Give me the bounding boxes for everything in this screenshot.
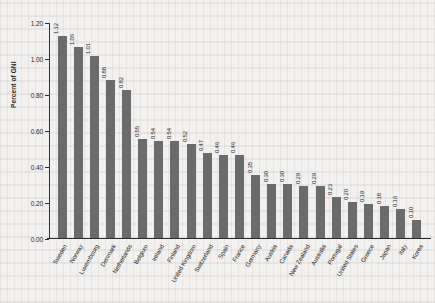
x-label-slot: Greece	[361, 241, 377, 301]
bar[interactable]: 0.46	[235, 155, 244, 238]
bar-slot: 1.06	[70, 23, 86, 238]
x-label-slot: Australia	[313, 241, 329, 301]
bar-slot: 0.30	[264, 23, 280, 238]
bar-value-label: 0.29	[295, 173, 301, 184]
bar-value-label: 0.18	[376, 193, 382, 204]
bar[interactable]: 0.46	[219, 155, 228, 238]
bar-value-label: 0.29	[311, 173, 317, 184]
y-axis-tick: 0.40	[16, 163, 49, 172]
bar-value-label: 0.82	[118, 78, 124, 89]
bar-slot: 1.01	[86, 23, 102, 238]
x-label-slot: France	[232, 241, 248, 301]
y-axis-tick: 0.00	[16, 235, 49, 244]
bar[interactable]: 0.18	[380, 206, 389, 238]
bar[interactable]: 1.01	[90, 56, 99, 238]
y-axis-tick: 1.00	[16, 55, 49, 64]
y-axis-tick-label: 0.80	[31, 91, 43, 100]
y-axis-tick: 0.60	[16, 127, 49, 136]
bar-slot: 1.12	[54, 23, 70, 238]
bar-slot: 0.10	[409, 23, 425, 238]
y-axis-tick-mark	[45, 167, 49, 168]
bar[interactable]: 0.20	[348, 202, 357, 238]
bar-slot: 0.55	[135, 23, 151, 238]
bar-value-label: 0.46	[230, 142, 236, 153]
y-axis-tick-mark	[45, 239, 49, 240]
x-axis-category-label: Ireland	[150, 243, 165, 262]
x-axis-category-label: Japan	[377, 243, 391, 261]
y-axis-tick-mark	[45, 203, 49, 204]
x-axis-category-label: Sweden	[51, 243, 68, 265]
x-label-slot: Ireland	[151, 241, 167, 301]
y-axis-tick-label: 0.40	[31, 163, 43, 172]
bar[interactable]: 0.55	[138, 139, 147, 238]
bar-value-label: 0.47	[198, 141, 204, 152]
bar[interactable]: 0.30	[283, 184, 292, 238]
plot-area: 0.000.200.400.600.801.001.20 1.121.061.0…	[49, 23, 428, 239]
bar-value-label: 0.52	[182, 132, 188, 143]
x-axis-category-label: Greece	[359, 243, 375, 264]
bar-slot: 0.82	[119, 23, 135, 238]
bar-slot: 0.29	[312, 23, 328, 238]
bar[interactable]: 0.16	[396, 209, 405, 238]
x-label-slot: New Zealand	[297, 241, 313, 301]
y-axis-tick: 1.20	[16, 19, 49, 28]
x-axis-category-label: Norway	[68, 243, 84, 264]
bar-value-label: 1.01	[85, 43, 91, 54]
x-label-slot: Italy	[394, 241, 410, 301]
bar-slot: 0.35	[248, 23, 264, 238]
bar-slot: 0.52	[183, 23, 199, 238]
bar[interactable]: 0.35	[251, 175, 260, 238]
bar[interactable]: 1.12	[58, 36, 67, 238]
bar-slot: 0.19	[360, 23, 376, 238]
bar[interactable]: 0.23	[332, 197, 341, 238]
x-label-slot: Sweden	[54, 241, 70, 301]
bar[interactable]: 0.88	[106, 80, 115, 238]
bar-value-label: 1.06	[69, 34, 75, 45]
bar-value-label: 0.19	[359, 191, 365, 202]
bar-value-label: 0.35	[247, 162, 253, 173]
x-axis-category-label: Italy	[396, 243, 407, 256]
bar[interactable]: 0.54	[170, 141, 179, 238]
bar-slot: 0.18	[377, 23, 393, 238]
y-axis-tick-label: 0.20	[31, 199, 43, 208]
y-axis-tick: 0.20	[16, 199, 49, 208]
bar[interactable]: 0.29	[316, 186, 325, 238]
bar[interactable]: 0.19	[364, 204, 373, 238]
bar[interactable]: 0.82	[122, 90, 131, 238]
x-axis-category-labels: SwedenNorwayLuxembourgDenmarkNetherlands…	[50, 241, 429, 301]
bar[interactable]: 0.54	[154, 141, 163, 238]
y-axis-tick-label: 0.00	[31, 235, 43, 244]
bar[interactable]: 1.06	[74, 47, 83, 238]
bar-value-label: 1.12	[53, 24, 59, 35]
bar-value-label: 0.16	[392, 196, 398, 207]
bar[interactable]: 0.10	[412, 220, 421, 238]
bar-slot: 0.54	[167, 23, 183, 238]
y-axis-tick: 0.80	[16, 91, 49, 100]
y-axis-tick-mark	[45, 131, 49, 132]
bar-slot: 0.54	[151, 23, 167, 238]
bar-slot: 0.20	[344, 23, 360, 238]
bar[interactable]: 0.29	[299, 186, 308, 238]
bar-value-label: 0.46	[214, 142, 220, 153]
bar-slot: 0.16	[393, 23, 409, 238]
bar-slot: 0.88	[102, 23, 118, 238]
x-axis-category-label: Finland	[165, 243, 181, 263]
x-label-slot: Netherlands	[119, 241, 135, 301]
y-axis-tick-label: 1.20	[31, 19, 43, 28]
bar-slot: 0.46	[231, 23, 247, 238]
bar[interactable]: 0.47	[203, 153, 212, 238]
bar[interactable]: 0.52	[187, 144, 196, 238]
x-axis-category-label: Austria	[263, 243, 278, 263]
x-axis-category-label: Korea	[410, 243, 424, 260]
bar-value-label: 0.88	[101, 67, 107, 78]
x-axis-category-label: Belgium	[132, 243, 149, 265]
x-label-slot: Germany	[248, 241, 264, 301]
x-label-slot: Austria	[264, 241, 280, 301]
bar-value-label: 0.30	[263, 171, 269, 182]
x-label-slot: Belgium	[135, 241, 151, 301]
bar-value-label: 0.30	[279, 171, 285, 182]
x-label-slot: Japan	[377, 241, 393, 301]
bar[interactable]: 0.30	[267, 184, 276, 238]
y-axis-tick-mark	[45, 59, 49, 60]
x-label-slot: Switzerland	[200, 241, 216, 301]
